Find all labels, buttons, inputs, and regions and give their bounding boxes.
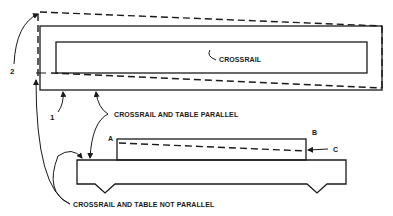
dashed-top-line xyxy=(40,12,382,26)
crossrail-label: CROSSRAIL xyxy=(219,56,262,63)
point-a-label: A xyxy=(108,135,113,142)
not-parallel-arrow-table xyxy=(53,151,82,204)
ref-2-arrow xyxy=(14,14,38,64)
parallel-label: CROSSRAIL AND TABLE PARALLEL xyxy=(114,111,239,118)
point-c-label: C xyxy=(333,146,338,153)
crossrail-table-diagram: CROSSRAIL 2 1 CROSSRAIL AND TABLE PARALL… xyxy=(0,0,393,216)
table-assembly xyxy=(77,139,346,193)
not-parallel-arrow-up xyxy=(36,80,70,204)
point-b-label: B xyxy=(312,129,317,136)
not-parallel-label: CROSSRAIL AND TABLE NOT PARALLEL xyxy=(73,201,215,208)
ref-2-label: 2 xyxy=(10,67,15,76)
dashed-reference-line xyxy=(119,143,306,151)
point-c-arrow xyxy=(308,149,328,150)
parallel-arrow-up xyxy=(96,92,108,114)
parallel-arrow-down xyxy=(90,114,108,158)
table-body xyxy=(77,160,346,193)
ref-1-arrow xyxy=(58,92,63,112)
ref-1-label: 1 xyxy=(50,113,55,122)
dashed-bottom-line xyxy=(51,73,382,88)
crossrail-leader xyxy=(209,50,216,60)
